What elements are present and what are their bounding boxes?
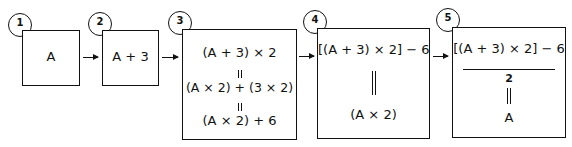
step-3-line-2: (A × 2) + (3 × 2) [183,80,296,95]
step-5-box: [(A + 3) × 2] − 6 2 A [452,27,566,138]
fraction-bar [463,69,555,70]
step-4-line-1: [(A + 3) × 2] − 6 [318,42,429,57]
step-5-numerator: [(A + 3) × 2] − 6 [453,41,565,56]
equals-sign-vertical [238,70,242,78]
arrow-1-to-2 [83,57,98,58]
step-4-box: [(A + 3) × 2] − 6 (A × 2) [317,28,430,139]
arrow-4-to-5 [433,56,448,57]
arrow-3-to-4 [299,56,314,57]
step-1-box: A [22,30,80,86]
step-3-line-1: (A + 3) × 2 [183,45,296,60]
equals-sign-vertical [372,71,376,95]
step-5-result: A [453,110,565,125]
step-2-box: A + 3 [102,30,159,86]
step-5-denominator: 2 [453,72,565,85]
step-3-box: (A + 3) × 2 (A × 2) + (3 × 2) (A × 2) + … [182,29,297,140]
step-2-expression: A + 3 [103,49,158,64]
step-3-line-3: (A × 2) + 6 [183,113,296,128]
equals-sign-vertical [507,88,511,104]
step-1-expression: A [23,49,79,64]
arrow-2-to-3 [162,57,178,58]
equals-sign-vertical [238,103,242,111]
step-4-line-2: (A × 2) [318,107,429,122]
